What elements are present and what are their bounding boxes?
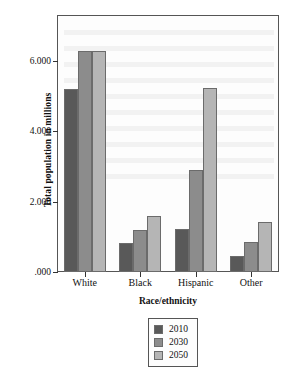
chart-legend: 201020302050 [148, 318, 198, 367]
plot-area: .0002.0004.0006.000 [57, 15, 279, 272]
y-tick-mark [53, 272, 58, 273]
y-tick-mark [53, 202, 58, 203]
bar [244, 242, 258, 272]
y-tick-label: 4.000 [30, 126, 51, 136]
legend-swatch [154, 338, 163, 347]
y-tick-label: 6.000 [30, 56, 51, 66]
legend-item: 2050 [154, 349, 188, 362]
legend-label: 2010 [169, 325, 188, 335]
bar [119, 243, 133, 272]
bar [64, 89, 78, 272]
legend-label: 2050 [169, 351, 188, 361]
bar [189, 170, 203, 272]
legend-item: 2010 [154, 323, 188, 336]
bar [230, 256, 244, 272]
bar [147, 216, 161, 272]
legend-swatch [154, 351, 163, 360]
y-tick-label: .000 [34, 267, 51, 277]
x-tick-label: Hispanic [178, 277, 214, 288]
y-tick-mark [53, 131, 58, 132]
y-tick-mark [53, 61, 58, 62]
bar [133, 230, 147, 272]
x-tick-label: Other [240, 277, 263, 288]
bar-chart-figure: Total population in millions .0002.0004.… [0, 0, 295, 377]
legend-swatch [154, 325, 163, 334]
x-axis-title: Race/ethnicity [57, 296, 279, 306]
x-tick-label: Black [129, 277, 152, 288]
bar [78, 51, 92, 272]
legend-label: 2030 [169, 338, 188, 348]
bar [258, 222, 272, 272]
bar [175, 229, 189, 272]
legend-item: 2030 [154, 336, 188, 349]
bar [203, 88, 217, 272]
y-axis-title: Total population in millions [43, 40, 53, 260]
y-tick-label: 2.000 [30, 197, 51, 207]
x-tick-label: White [73, 277, 97, 288]
bar [92, 51, 106, 272]
